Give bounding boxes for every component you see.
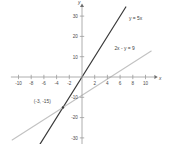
y-tick-label: -20 [71, 115, 78, 120]
x-tick-label: -10 [15, 81, 22, 86]
x-tick-label: -2 [67, 81, 72, 86]
x-tick-label: 4 [106, 81, 109, 86]
chart-figure: -10-8-6-4-2246810-30-20-10102030xy (-3, … [0, 0, 175, 144]
x-tick-label: -4 [55, 81, 60, 86]
y-tick-label: 30 [73, 14, 79, 19]
chart-background [0, 0, 175, 144]
x-tick-label: -8 [29, 81, 34, 86]
x-tick-label: 10 [143, 81, 149, 86]
y-tick-label: 20 [73, 34, 79, 39]
x-tick-label: 6 [119, 81, 122, 86]
x-axis-label: x [158, 76, 162, 81]
series-label-2: 2x - y = 9 [114, 46, 135, 51]
intersection-point-label: (-3, -15) [34, 99, 51, 104]
coordinate-plane-graph: -10-8-6-4-2246810-30-20-10102030xy (-3, … [0, 0, 175, 144]
series-label-1: y = 5x [129, 16, 143, 21]
x-tick-label: 2 [93, 81, 96, 86]
y-tick-label: -10 [71, 95, 78, 100]
x-tick-label: 8 [132, 81, 135, 86]
intersection-point-marker [62, 106, 64, 109]
y-tick-label: 10 [73, 55, 79, 60]
y-tick-label: -30 [71, 136, 78, 141]
x-tick-label: -6 [42, 81, 47, 86]
y-axis-label: y [77, 0, 81, 5]
